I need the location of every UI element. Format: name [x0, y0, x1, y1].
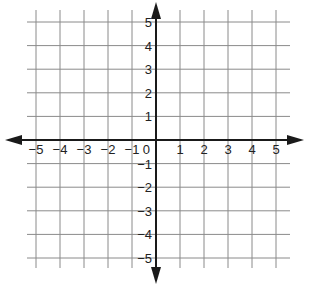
y-tick-label: −4: [137, 227, 152, 242]
y-tick-label: −1: [137, 157, 152, 172]
x-tick-label: 4: [248, 142, 255, 157]
x-tick-label: −4: [53, 142, 68, 157]
y-tick-label: 5: [145, 15, 152, 30]
x-tick-label: 3: [224, 142, 231, 157]
y-tick-label: −2: [137, 180, 152, 195]
x-axis-left-arrow-icon: [5, 135, 22, 145]
axes: [5, 2, 304, 284]
y-axis-up-arrow-icon: [151, 2, 161, 19]
x-tick-label: −5: [29, 142, 44, 157]
x-tick-label: 5: [272, 142, 279, 157]
y-tick-label: 1: [145, 109, 152, 124]
y-tick-label: 3: [145, 62, 152, 77]
x-tick-label: 0: [143, 142, 150, 157]
y-axis-down-arrow-icon: [151, 267, 161, 284]
x-axis-right-arrow-icon: [287, 135, 304, 145]
coordinate-plane: −5−4−3−2−101234554321−1−2−3−4−5: [0, 0, 309, 285]
x-tick-label: −3: [77, 142, 92, 157]
y-tick-label: 2: [145, 86, 152, 101]
x-tick-label: −1: [125, 142, 140, 157]
y-tick-label: −5: [137, 251, 152, 266]
y-tick-label: 4: [145, 39, 152, 54]
x-tick-label: 2: [200, 142, 207, 157]
x-tick-label: 1: [176, 142, 183, 157]
x-tick-label: −2: [101, 142, 116, 157]
y-tick-label: −3: [137, 204, 152, 219]
